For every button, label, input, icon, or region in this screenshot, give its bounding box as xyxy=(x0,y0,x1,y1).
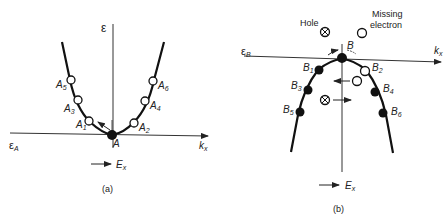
panel-a: ε εA kx A A1 A2 A3 A4 A5 A6 Ex (a) xyxy=(9,21,208,194)
band-edge-label-b: εB xyxy=(241,45,251,58)
label-b1: B1 xyxy=(303,62,314,74)
state-b-center xyxy=(337,53,347,63)
missing-electron-legend-icon xyxy=(358,29,367,38)
label-b3: B3 xyxy=(291,80,302,92)
label-b2: B2 xyxy=(372,62,383,74)
label-b5: B5 xyxy=(283,104,294,116)
state-b4 xyxy=(371,88,380,97)
center-label-a: A xyxy=(112,138,120,149)
center-label-b: B xyxy=(347,40,354,51)
caption-a: (a) xyxy=(102,184,113,194)
label-a4: A4 xyxy=(149,100,161,112)
k-axis-label-a: kx xyxy=(199,140,208,152)
missing-electron-label-2: electron xyxy=(370,20,402,30)
band-diagram: ε εA kx A A1 A2 A3 A4 A5 A6 Ex (a) xyxy=(0,0,446,220)
state-b6 xyxy=(379,109,388,118)
label-a3: A3 xyxy=(63,103,75,115)
motion-arrow-b xyxy=(328,50,338,55)
label-a5: A5 xyxy=(55,79,67,91)
state-b2 xyxy=(361,67,370,76)
missing-electron-label-1: Missing xyxy=(372,9,403,19)
label-b6: B6 xyxy=(391,106,402,118)
label-b4: B4 xyxy=(383,83,394,95)
hole-label: Hole xyxy=(300,18,319,28)
band-edge-label-a: εA xyxy=(9,139,19,152)
state-b1 xyxy=(315,66,324,75)
state-a3 xyxy=(74,96,82,104)
label-a6: A6 xyxy=(157,80,169,92)
state-b5 xyxy=(296,108,305,117)
k-axis-label-b: kx xyxy=(434,45,443,57)
hole-legend-icon xyxy=(321,28,330,37)
hole-marker xyxy=(321,96,330,105)
missing-electron-marker xyxy=(353,77,362,86)
state-a4 xyxy=(141,97,149,105)
energy-axis-label-a: ε xyxy=(101,21,107,35)
field-label-a: Ex xyxy=(116,159,127,171)
state-a5 xyxy=(67,76,75,84)
caption-b: (b) xyxy=(333,204,344,214)
state-a2 xyxy=(130,119,138,127)
label-a2: A2 xyxy=(138,122,150,134)
panel-b: Hole Missing electron εB kx B B1 B2 B3 B… xyxy=(241,9,443,214)
state-b3 xyxy=(304,86,313,95)
field-label-b: Ex xyxy=(345,180,356,192)
state-a6 xyxy=(149,77,157,85)
